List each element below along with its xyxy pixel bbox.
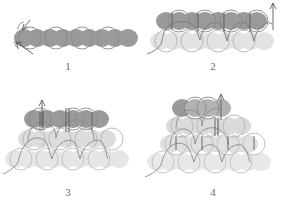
panel-1-illustration (0, 0, 143, 60)
beadwork-diagram: 1 (0, 0, 287, 216)
bead-row-3-top (24, 110, 109, 128)
panel-3-illustration (0, 92, 143, 184)
panel-3 (0, 92, 143, 184)
needle-arrow-icon (270, 3, 276, 30)
bead-row-3 (166, 117, 251, 135)
panel-1 (0, 0, 143, 60)
panel-2-illustration (143, 0, 287, 60)
panel-1-caption: 1 (58, 60, 78, 72)
panel-4 (143, 92, 287, 184)
panel-2-caption: 2 (203, 60, 223, 72)
panel-3-caption: 3 (58, 186, 78, 198)
panel-4-illustration (143, 92, 287, 184)
panel-2 (143, 0, 287, 60)
panel-4-caption: 4 (203, 186, 223, 198)
